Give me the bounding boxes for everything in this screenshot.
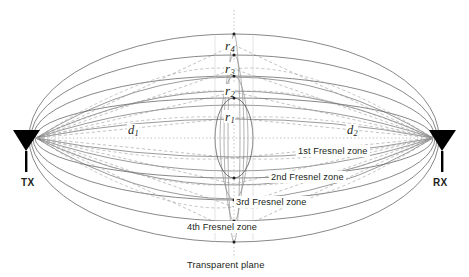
radius-r1-label: r1 <box>224 110 235 123</box>
fresnel-zone-1-label: 1st Fresnel zone <box>296 145 370 157</box>
rx-label: RX <box>432 178 449 188</box>
tx-antenna-dish <box>13 130 40 151</box>
fresnel-zone-3-label: 3rd Fresnel zone <box>234 196 309 208</box>
meridian-arc-bottom-4 <box>36 138 433 199</box>
vertex-marker-bottom-1 <box>233 177 236 180</box>
zone-band-edge-lower-1 <box>36 138 433 159</box>
ray-path-zone-4-lower <box>36 138 433 231</box>
vertex-marker-bottom-4 <box>233 241 236 244</box>
distance-d1-symbol: d <box>128 123 134 137</box>
distance-d1-subscript: 1 <box>135 129 139 138</box>
tx-antenna-mast <box>25 151 27 172</box>
distance-d2-symbol: d <box>347 123 353 137</box>
radius-r2-label: r2 <box>224 84 235 97</box>
distance-d1-label: d1 <box>127 124 139 137</box>
ray-path-zone-3-upper <box>36 69 433 138</box>
radius-r3-subscript: 3 <box>230 67 234 77</box>
fresnel-zone-2-label: 2nd Fresnel zone <box>269 171 346 183</box>
tx-antenna-icon <box>13 130 40 172</box>
rx-antenna-icon <box>429 130 456 172</box>
tx-label: TX <box>20 178 35 188</box>
fresnel-zone-figure: TX RX d1 d2 r1 r2 r3 r4 1st Fresnel zone… <box>0 0 469 277</box>
vertex-marker-top-4 <box>233 33 236 36</box>
fresnel-zone-4-label: 4th Fresnel zone <box>185 221 259 233</box>
transparent-plane-label: Transparent plane <box>184 258 267 270</box>
radius-r4-subscript: 4 <box>230 44 234 54</box>
meridian-arc-bottom-1 <box>36 138 433 157</box>
radius-r1-subscript: 1 <box>230 115 234 125</box>
radius-r2-subscript: 2 <box>230 89 234 99</box>
radius-r4-label: r4 <box>224 39 235 52</box>
rx-antenna-dish <box>429 130 456 151</box>
distance-d2-label: d2 <box>346 124 358 137</box>
rx-antenna-mast <box>441 151 443 172</box>
radius-r3-label: r3 <box>224 62 235 75</box>
zone-band-edge-upper-3 <box>36 68 433 138</box>
distance-d2-subscript: 2 <box>354 129 358 138</box>
